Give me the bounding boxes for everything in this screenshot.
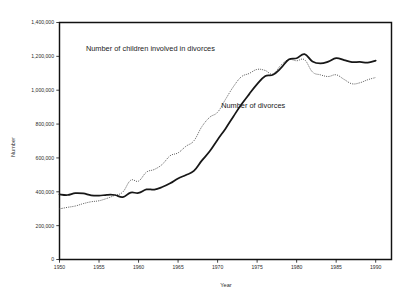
- x-tick-label: 1955: [93, 264, 104, 270]
- x-axis-tick-labels: 195019551960196519701975198019851990: [54, 264, 382, 270]
- y-axis-tick-labels: 0200,000400,000600,000800,0001,000,0001,…: [31, 19, 54, 262]
- series-annotation-label: Number of divorces: [221, 101, 285, 110]
- x-tick-label: 1970: [212, 264, 223, 270]
- y-tick-label: 0: [51, 256, 54, 262]
- series-line-divorces: [60, 54, 376, 197]
- y-tick-label: 1,200,000: [31, 53, 54, 59]
- x-tick-label: 1960: [133, 264, 144, 270]
- y-tick-label: 1,000,000: [31, 87, 54, 93]
- y-tick-label: 1,400,000: [31, 19, 54, 25]
- x-tick-label: 1975: [251, 264, 262, 270]
- y-tick-label: 600,000: [36, 155, 55, 161]
- x-axis-title: Year: [220, 282, 231, 288]
- x-tick-label: 1980: [291, 264, 302, 270]
- x-tick-label: 1990: [370, 264, 381, 270]
- x-tick-label: 1965: [172, 264, 183, 270]
- x-tick-label: 1950: [54, 264, 65, 270]
- series-annotations: Number of children involved in divorcesN…: [86, 44, 286, 110]
- series-annotation-label: Number of children involved in divorces: [86, 44, 215, 53]
- chart-figure: 0200,000400,000600,000800,0001,000,0001,…: [0, 0, 418, 299]
- y-tick-label: 200,000: [36, 223, 55, 229]
- y-tick-label: 400,000: [36, 189, 55, 195]
- x-tick-label: 1985: [330, 264, 341, 270]
- y-axis-title: Number: [10, 137, 16, 157]
- y-tick-label: 800,000: [36, 121, 55, 127]
- plot-frame: [60, 23, 392, 260]
- series-line-children-involved: [60, 59, 376, 209]
- series-group: [60, 54, 376, 209]
- line-chart: 0200,000400,000600,000800,0001,000,0001,…: [0, 0, 418, 299]
